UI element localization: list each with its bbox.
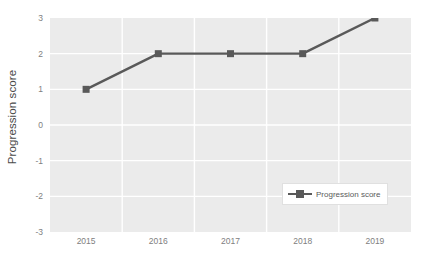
x-axis-tick-label: 2019 [365,236,384,246]
y-axis-tick-label: 1 [38,84,43,94]
line-chart: Progression score 3210-1-2-3 20152016201… [0,0,421,253]
horizontal-gridlines [50,54,411,197]
y-axis-tick-label: -1 [35,156,43,166]
x-axis-tick-labels: 20152016201720182019 [50,234,411,252]
y-axis-tick-label: -2 [35,191,43,201]
x-axis-tick-label: 2017 [221,236,240,246]
y-axis-tick-label: 2 [38,49,43,59]
data-point-marker [155,50,162,57]
x-axis-tick-label: 2016 [149,236,168,246]
series-marker-group [83,18,379,93]
legend-marker-icon [288,189,312,199]
legend-item-label: Progression score [316,190,380,199]
legend-square-icon [296,190,304,198]
data-point-marker [299,50,306,57]
y-axis-tick-labels: 3210-1-2-3 [24,18,48,232]
y-axis-tick-label: 3 [38,13,43,23]
y-axis-title-text: Progression score [6,70,18,164]
data-point-marker [83,86,90,93]
y-axis-title: Progression score [0,0,24,234]
data-point-marker [227,50,234,57]
x-axis-tick-label: 2018 [293,236,312,246]
y-axis-tick-label: -3 [35,227,43,237]
x-axis-tick-label: 2015 [77,236,96,246]
chart-legend: Progression score [282,183,388,205]
y-axis-tick-label: 0 [38,120,43,130]
data-point-marker [371,18,378,22]
legend-item: Progression score [288,189,380,199]
